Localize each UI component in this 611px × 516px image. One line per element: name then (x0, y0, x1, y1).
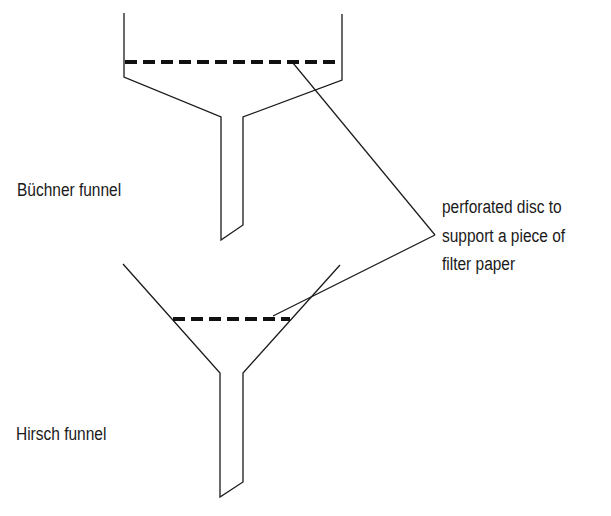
hirsch-funnel-label: Hirsch funnel (16, 424, 106, 444)
perforated-disc-annotation: perforated disc to support a piece of fi… (442, 193, 565, 279)
annotation-line-3: filter paper (442, 250, 565, 279)
leader-line-buchner (293, 63, 435, 235)
annotation-line-2: support a piece of (442, 222, 565, 251)
annotation-line-1: perforated disc to (442, 193, 565, 222)
buchner-funnel-label: Büchner funnel (17, 180, 121, 200)
buchner-funnel-outline-left (124, 13, 342, 240)
leader-lines (273, 63, 435, 316)
buchner-funnel-drawing (124, 13, 342, 240)
leader-line-hirsch (273, 235, 435, 316)
